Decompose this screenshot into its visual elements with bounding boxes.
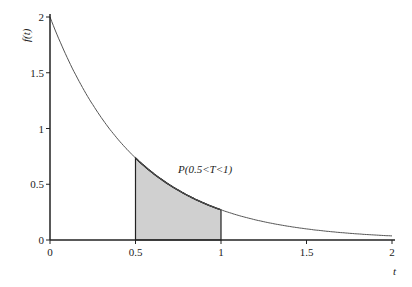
y-tick-label: 1 [39,123,45,135]
x-tick-label: 0.5 [129,246,143,258]
x-ticks: 00.511.52 [47,240,395,258]
chart: 00.511.52 00.511.52 t f(t) P(0.5<T<1) [0,0,412,287]
x-tick-label: 2 [389,246,395,258]
y-tick-label: 0 [39,234,45,246]
y-tick-label: 2 [39,11,45,23]
y-axis-label: f(t) [20,28,33,42]
y-tick-label: 1.5 [30,67,44,79]
y-tick-label: 0.5 [30,178,44,190]
x-tick-label: 1 [218,246,224,258]
x-tick-label: 1.5 [300,246,314,258]
density-curve [50,17,392,236]
region-label: P(0.5<T<1) [177,163,233,176]
x-axis-label: t [393,265,397,277]
y-ticks: 00.511.52 [30,11,50,246]
x-tick-label: 0 [47,246,53,258]
